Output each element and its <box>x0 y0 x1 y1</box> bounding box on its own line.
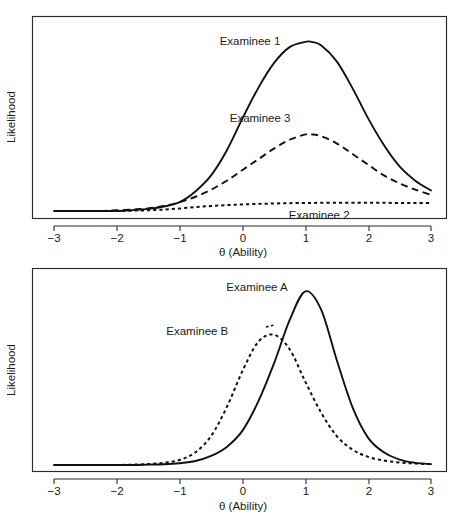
x-tick-label: 3 <box>428 232 434 244</box>
x-tick-label: −2 <box>110 485 123 497</box>
x-tick-label: −2 <box>110 232 123 244</box>
curve-examinee-3 <box>54 134 431 211</box>
x-tick-label: −3 <box>47 485 60 497</box>
plot-frame-bottom <box>33 269 447 472</box>
x-tick-label: 1 <box>303 232 309 244</box>
series-label-examinee-b: Examinee B <box>166 325 228 337</box>
x-tick-label: 2 <box>366 485 372 497</box>
chart-svg-bottom: −3 −2 −1 0 1 2 3 θ (Ability) Likelihood … <box>0 263 469 526</box>
figure-container: −3 −2 −1 0 1 2 3 θ (Ability) Likelihood … <box>0 0 469 526</box>
x-axis-title-bottom: θ (Ability) <box>219 500 267 512</box>
curve-examinee-a <box>54 291 431 465</box>
series-label-examinee-1: Examinee 1 <box>220 35 281 47</box>
x-tick-label: 3 <box>428 485 434 497</box>
x-tick-label: 1 <box>303 485 309 497</box>
x-tick-label: −1 <box>173 232 186 244</box>
x-tick-label: −1 <box>173 485 186 497</box>
x-tick-label: −3 <box>47 232 60 244</box>
y-axis-title-bottom: Likelihood <box>5 344 17 396</box>
chart-panel-top: −3 −2 −1 0 1 2 3 θ (Ability) Likelihood … <box>0 0 469 263</box>
chart-svg-top: −3 −2 −1 0 1 2 3 θ (Ability) Likelihood … <box>0 0 469 263</box>
x-axis-title-top: θ (Ability) <box>219 246 267 258</box>
chart-panel-bottom: −3 −2 −1 0 1 2 3 θ (Ability) Likelihood … <box>0 263 469 526</box>
y-axis-title-top: Likelihood <box>5 91 17 143</box>
curve-examinee-1 <box>54 41 431 211</box>
series-label-examinee-2: Examinee 2 <box>289 209 350 221</box>
x-tick-label: 0 <box>240 485 246 497</box>
series-label-examinee-3: Examinee 3 <box>230 112 291 124</box>
curve-examinee-2 <box>54 203 431 211</box>
x-tick-label: 2 <box>366 232 372 244</box>
x-axis-ticks-bottom <box>54 479 431 484</box>
x-axis-ticks-top <box>54 226 431 231</box>
series-label-examinee-a: Examinee A <box>226 281 288 293</box>
leader-line-examinee-b <box>266 325 274 327</box>
x-tick-label: 0 <box>240 232 246 244</box>
